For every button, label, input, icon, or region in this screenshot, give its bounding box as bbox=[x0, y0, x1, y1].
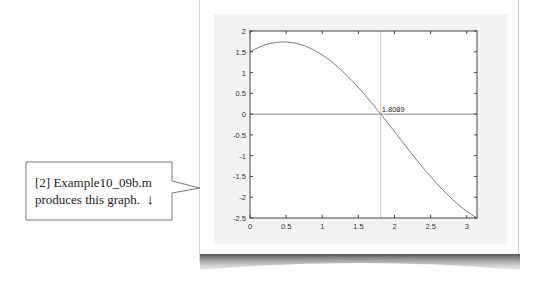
callout-text: [2] Example10_09b.m produces this graph.… bbox=[35, 174, 175, 208]
callout-line-2: produces this graph. ↓ bbox=[35, 191, 175, 208]
callout-box bbox=[0, 0, 540, 287]
callout-line-1: [2] Example10_09b.m bbox=[35, 174, 175, 191]
down-arrow-icon: ↓ bbox=[147, 191, 155, 207]
